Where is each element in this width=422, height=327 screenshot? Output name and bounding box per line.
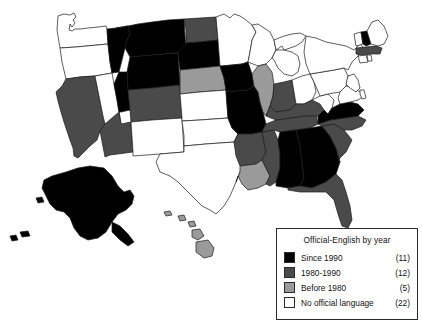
legend-item-1980-1990[interactable]: 1980-1990 (12) bbox=[284, 265, 410, 280]
legend-item-before1980[interactable]: Before 1980 (5) bbox=[284, 280, 410, 295]
state-MA[interactable] bbox=[356, 46, 382, 55]
legend-label-before1980: Before 1980 bbox=[301, 283, 400, 293]
state-CO[interactable] bbox=[128, 85, 182, 122]
state-WA[interactable] bbox=[57, 13, 108, 48]
state-WY[interactable] bbox=[127, 53, 180, 90]
legend-label-1980-1990: 1980-1990 bbox=[301, 268, 395, 278]
legend-count-none: (22) bbox=[395, 298, 410, 308]
legend-count-since1990: (11) bbox=[396, 253, 410, 263]
state-OR[interactable] bbox=[60, 44, 112, 79]
legend-swatch-1980-1990 bbox=[284, 267, 295, 278]
legend-item-since1990[interactable]: Since 1990 (11) bbox=[284, 250, 410, 265]
legend: Official-English by year Since 1990 (11)… bbox=[276, 228, 418, 320]
state-MI[interactable] bbox=[272, 33, 306, 76]
us-choropleth-figure: Official-English by year Since 1990 (11)… bbox=[0, 0, 422, 327]
legend-swatch-since1990 bbox=[284, 252, 295, 263]
state-ND[interactable] bbox=[184, 17, 218, 43]
state-NM[interactable] bbox=[131, 118, 184, 156]
state-RI[interactable] bbox=[367, 55, 372, 61]
state-IN[interactable] bbox=[270, 80, 296, 112]
state-AK[interactable] bbox=[10, 166, 134, 246]
legend-swatch-before1980 bbox=[284, 282, 295, 293]
state-HI[interactable] bbox=[164, 211, 214, 258]
legend-count-before1980: (5) bbox=[400, 283, 410, 293]
map-states-layer bbox=[10, 13, 388, 258]
state-NE[interactable] bbox=[180, 66, 226, 94]
legend-label-since1990: Since 1990 bbox=[301, 253, 396, 263]
state-KS[interactable] bbox=[180, 90, 228, 121]
legend-title: Official-English by year bbox=[284, 235, 410, 245]
state-CT[interactable] bbox=[358, 55, 368, 63]
legend-label-none: No official language bbox=[301, 298, 395, 308]
legend-item-none[interactable]: No official language (22) bbox=[284, 295, 410, 310]
state-ME[interactable] bbox=[367, 20, 388, 46]
legend-swatch-none bbox=[284, 297, 295, 308]
legend-count-1980-1990: (12) bbox=[395, 268, 410, 278]
